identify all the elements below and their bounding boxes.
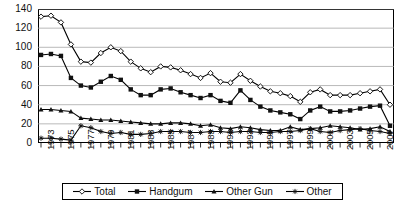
data-point-asterisk	[58, 137, 63, 142]
data-point-open-diamond	[158, 64, 163, 69]
legend-item-total: Total	[73, 186, 115, 197]
data-point-open-diamond	[258, 84, 263, 89]
data-point-open-diamond	[108, 45, 113, 50]
chart-legend: TotalHandgumOther GunOther	[62, 183, 343, 200]
legend-marker-icon	[286, 187, 304, 196]
data-point-asterisk	[318, 129, 323, 134]
data-point-open-diamond	[80, 189, 85, 194]
data-point-filled-square	[298, 117, 302, 121]
data-point-open-diamond	[68, 42, 73, 47]
x-axis-tick-label: 1987	[185, 130, 196, 150]
data-point-filled-triangle	[288, 124, 293, 129]
data-point-filled-square	[89, 85, 93, 89]
data-point-filled-square	[318, 104, 322, 108]
data-point-filled-square	[388, 124, 392, 128]
x-axis-tick-label: 1981	[125, 130, 136, 150]
data-point-asterisk	[78, 123, 83, 128]
x-axis-tick-label: 1997	[284, 130, 295, 150]
data-point-asterisk	[377, 129, 382, 134]
y-axis-tick-label: 100	[0, 42, 32, 52]
legend-item-other: Other	[286, 186, 332, 197]
x-axis-tick-label: 2003	[344, 130, 355, 150]
data-point-open-diamond	[78, 59, 83, 64]
series-total	[38, 13, 392, 107]
data-point-asterisk	[338, 128, 343, 133]
legend-label: Other	[307, 186, 332, 197]
data-point-filled-square	[79, 83, 83, 87]
data-point-open-diamond	[278, 91, 283, 96]
x-axis-tick-label: 1983	[145, 130, 156, 150]
data-point-asterisk	[238, 129, 243, 134]
data-point-open-diamond	[178, 68, 183, 73]
data-point-filled-square	[168, 86, 172, 90]
data-point-filled-square	[248, 98, 252, 102]
data-point-open-diamond	[318, 87, 323, 92]
legend-label: Other Gun	[226, 186, 273, 197]
series-line	[41, 54, 390, 126]
data-point-asterisk	[198, 130, 203, 135]
data-point-filled-square	[278, 110, 282, 114]
data-point-open-diamond	[198, 75, 203, 80]
x-axis-tick-label: 1999	[304, 130, 315, 150]
x-axis-tick-label: 1975	[65, 130, 76, 150]
data-point-asterisk	[138, 132, 143, 137]
data-point-filled-square	[198, 96, 202, 100]
y-axis-tick-label: 140	[0, 4, 32, 14]
data-point-filled-square	[109, 74, 113, 78]
data-point-open-diamond	[347, 92, 352, 97]
y-axis-tick-label: 40	[0, 100, 32, 110]
data-point-filled-square	[358, 106, 362, 110]
x-axis-tick-label: 1995	[264, 130, 275, 150]
data-point-filled-square	[59, 54, 63, 58]
chart-svg	[38, 9, 394, 143]
data-point-filled-square	[178, 90, 182, 94]
data-point-filled-square	[39, 53, 43, 57]
legend-marker-icon	[73, 187, 91, 196]
data-point-filled-square	[258, 104, 262, 108]
legend-item-other-gun: Other Gun	[205, 186, 273, 197]
data-point-filled-square	[308, 108, 312, 112]
data-point-filled-square	[158, 87, 162, 91]
y-axis-tick-label: 80	[0, 61, 32, 71]
data-point-open-diamond	[367, 89, 372, 94]
y-axis-tick-label: 20	[0, 119, 32, 129]
data-point-asterisk	[98, 129, 103, 134]
data-point-filled-square	[188, 93, 192, 97]
data-point-open-diamond	[148, 69, 153, 74]
data-point-open-diamond	[377, 87, 382, 92]
data-point-open-diamond	[38, 14, 43, 19]
legend-marker-icon	[205, 187, 223, 196]
data-point-open-diamond	[168, 65, 173, 70]
data-point-filled-square	[119, 78, 123, 82]
data-point-asterisk	[298, 128, 303, 133]
data-point-asterisk	[178, 129, 183, 134]
x-axis-ticks	[0, 143, 402, 151]
legend-label: Handgum	[149, 186, 192, 197]
x-axis-tick-label: 1991	[224, 130, 235, 150]
data-point-filled-square	[348, 108, 352, 112]
data-point-filled-square	[218, 99, 222, 103]
x-axis-tick-label: 1989	[205, 130, 216, 150]
data-point-asterisk	[38, 136, 43, 141]
data-point-open-diamond	[327, 92, 332, 97]
data-point-open-diamond	[387, 102, 392, 107]
x-axis-tick-label: 1979	[105, 130, 116, 150]
data-point-filled-square	[228, 101, 232, 105]
data-point-asterisk	[292, 189, 297, 194]
legend-item-handgum: Handgum	[128, 186, 192, 197]
data-point-asterisk	[218, 129, 223, 134]
data-point-filled-square	[99, 80, 103, 84]
data-point-filled-square	[238, 88, 242, 92]
data-point-asterisk	[357, 126, 362, 131]
data-point-filled-triangle	[378, 124, 383, 129]
data-point-open-diamond	[268, 89, 273, 94]
plot-area	[38, 9, 394, 143]
data-point-filled-square	[368, 104, 372, 108]
x-axis-tick-label: 2005	[364, 130, 375, 150]
data-point-asterisk	[158, 129, 163, 134]
y-axis-tick-label: 120	[0, 23, 32, 33]
data-point-filled-square	[135, 189, 139, 193]
data-point-filled-square	[268, 108, 272, 112]
data-point-open-diamond	[357, 91, 362, 96]
data-point-asterisk	[258, 130, 263, 135]
